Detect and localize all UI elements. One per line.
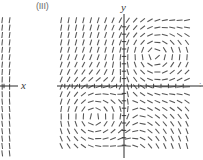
main-panel-slope-field [60,17,190,149]
direction-field-figure: (III) y x : [0,0,203,160]
y-axis-label: y [121,1,126,13]
panel-label-iii: (III) [36,1,49,11]
right-edge-partial-label: : [199,79,202,89]
slope-field-canvas [0,0,203,160]
x-axis-label: x [21,79,26,91]
left-panel-slope-field [2,17,10,156]
